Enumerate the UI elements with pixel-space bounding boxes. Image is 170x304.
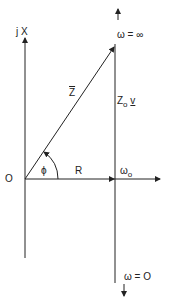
resonance-label-main: ω bbox=[120, 165, 128, 176]
jx-axis-label: j X bbox=[16, 27, 28, 37]
origin-label: O bbox=[5, 174, 13, 184]
phi-angle-label: ϕ bbox=[41, 166, 47, 176]
omega-infinity-label: ω = ∞ bbox=[117, 30, 143, 40]
diagram-canvas bbox=[0, 0, 170, 304]
resonance-label: ωo bbox=[120, 166, 132, 179]
locus-label-var: v bbox=[130, 95, 135, 106]
r-axis-label: R bbox=[75, 166, 82, 176]
omega-zero-label: ω = O bbox=[124, 272, 151, 282]
locus-label: Zo v bbox=[117, 96, 135, 109]
resonance-label-sub: o bbox=[128, 170, 132, 179]
z-vector bbox=[25, 47, 114, 179]
locus-label-sub: o bbox=[123, 100, 127, 109]
z-vector-label: Z bbox=[69, 88, 75, 98]
